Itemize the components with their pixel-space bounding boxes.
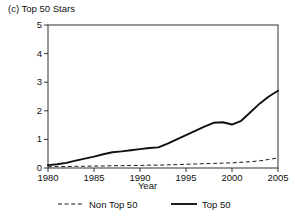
x-axis-label: Year (0, 180, 295, 191)
legend-swatch-dashed-icon (58, 199, 84, 209)
y-tick-label-3: 3 (28, 76, 42, 87)
y-tick-label-4: 4 (28, 48, 42, 59)
legend-label-non-top-50: Non Top 50 (89, 199, 137, 210)
figure-panel: (c) Top 50 Stars 0 1 2 3 4 5 (0, 0, 295, 219)
y-tick-label-1: 1 (28, 133, 42, 144)
y-tick-label-5: 5 (28, 19, 42, 30)
y-tick-label-2: 2 (28, 105, 42, 116)
y-axis-ticks (44, 25, 48, 168)
legend-item-top-50: Top 50 (171, 197, 231, 211)
legend-label-top-50: Top 50 (202, 199, 231, 210)
legend-item-non-top-50: Non Top 50 (58, 197, 137, 211)
legend-swatch-solid-icon (171, 199, 197, 209)
chart-legend: Non Top 50 Top 50 (0, 197, 295, 213)
